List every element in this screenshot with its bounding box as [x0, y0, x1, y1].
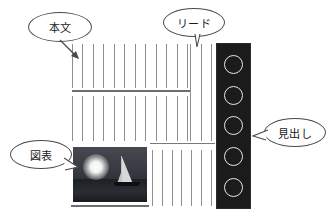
text-line — [201, 150, 202, 206]
text-line — [187, 96, 188, 141]
horizontal-rule — [72, 90, 190, 92]
boat-hull — [114, 182, 140, 186]
headline-circle — [224, 86, 243, 105]
headline-circle — [224, 55, 243, 74]
text-line — [190, 44, 191, 141]
text-line — [166, 96, 167, 141]
horizontal-rule — [71, 205, 149, 207]
text-line — [156, 44, 157, 88]
body-text-block-lower — [72, 96, 188, 141]
callout-tail-midashi — [250, 124, 274, 148]
callout-tail-lead — [189, 33, 209, 53]
text-line — [135, 44, 136, 88]
text-line — [177, 44, 178, 88]
text-line — [82, 96, 83, 141]
boat-sail-main — [122, 157, 133, 184]
text-line — [187, 44, 188, 88]
text-line — [181, 150, 182, 206]
layout-diagram: 本文 リード 見出し 図表 — [0, 0, 327, 220]
photo-figure — [73, 147, 147, 202]
text-line — [114, 44, 115, 88]
headline-circle — [224, 116, 243, 135]
text-line — [103, 96, 104, 141]
text-line — [211, 150, 212, 206]
text-line — [93, 96, 94, 141]
text-line — [156, 96, 157, 141]
callout-midashi: 見出し — [258, 118, 324, 158]
text-line — [211, 44, 212, 141]
text-line — [152, 150, 153, 206]
moon-icon — [83, 154, 109, 180]
horizontal-rule — [150, 143, 215, 144]
body-text-block-bottom-right — [152, 150, 212, 206]
headline-bar — [216, 43, 251, 209]
callout-tail-zuhyou — [60, 152, 84, 178]
text-line — [172, 150, 173, 206]
text-line — [177, 96, 178, 141]
headline-circle — [224, 178, 243, 197]
callout-tail-honbun — [58, 38, 103, 64]
text-line — [114, 96, 115, 141]
text-line — [135, 96, 136, 141]
text-line — [145, 44, 146, 88]
headline-circle — [224, 147, 243, 166]
text-line — [166, 44, 167, 88]
text-line — [103, 44, 104, 88]
text-line — [72, 96, 73, 141]
text-line — [124, 44, 125, 88]
callout-honbun: 本文 — [28, 12, 98, 62]
text-line — [201, 44, 202, 141]
callout-lead: リード — [163, 8, 229, 50]
text-line — [191, 150, 192, 206]
text-line — [162, 150, 163, 206]
text-line — [145, 96, 146, 141]
callout-zuhyou: 図表 — [10, 140, 80, 184]
lead-text-block — [190, 44, 212, 141]
text-line — [124, 96, 125, 141]
